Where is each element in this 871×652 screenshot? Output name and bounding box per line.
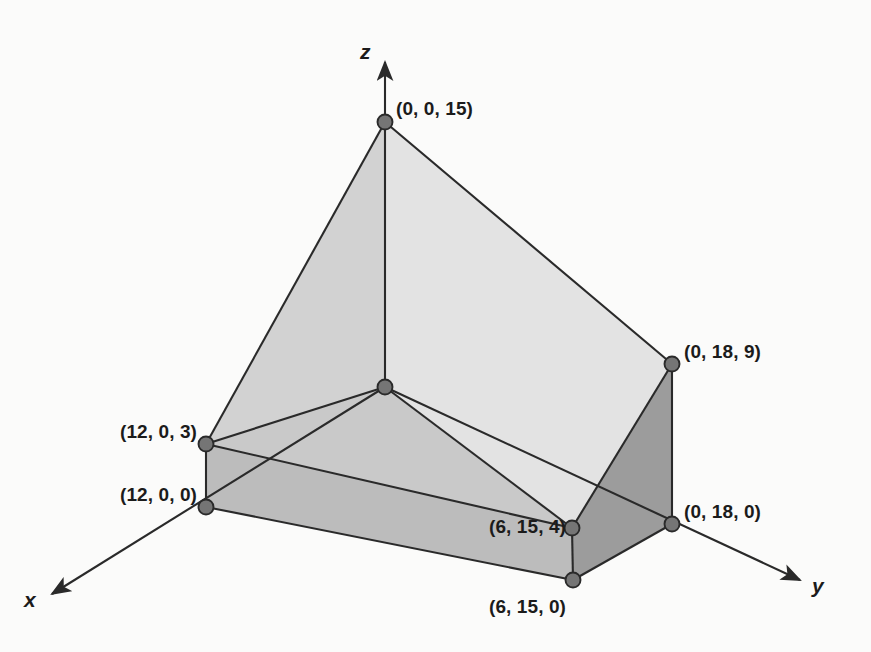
vertex-label-top: (0, 0, 15) [396, 98, 473, 120]
axis-label-z: z [360, 40, 371, 64]
vertex-dot-right-upper [665, 357, 680, 372]
shaded-faces [206, 122, 672, 580]
vertex-dot-origin [378, 380, 393, 395]
vertex-dot-left-upper [199, 437, 214, 452]
vertex-label-right-lower: (0, 18, 0) [684, 501, 761, 523]
vertex-dot-mid-upper [565, 521, 580, 536]
vertex-dot-top [378, 115, 393, 130]
vertex-label-left-lower: (12, 0, 0) [120, 484, 197, 506]
axis-label-x: x [24, 588, 36, 612]
vertex-label-left-upper: (12, 0, 3) [120, 421, 197, 443]
figure-canvas: z x y (0, 0, 15) (0, 18, 9) (0, 18, 0) (… [0, 0, 871, 652]
vertex-label-right-upper: (0, 18, 9) [684, 341, 761, 363]
vertex-dot-mid-lower [566, 573, 581, 588]
vertex-label-mid-lower: (6, 15, 0) [489, 596, 566, 618]
vertex-dot-right-lower [665, 517, 680, 532]
axis-label-y: y [812, 574, 824, 598]
vertex-label-mid-upper: (6, 15, 4) [489, 516, 566, 538]
vertex-dot-left-lower [199, 500, 214, 515]
